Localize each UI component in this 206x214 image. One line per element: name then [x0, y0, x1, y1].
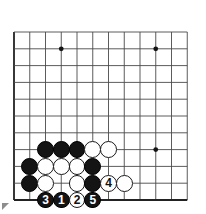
star-point	[153, 147, 158, 152]
go-stone-white	[69, 175, 86, 192]
go-stone-white	[53, 158, 70, 175]
move-marker-3: 3	[37, 192, 54, 209]
go-stone-black	[84, 175, 101, 192]
go-stone-black	[53, 141, 70, 158]
move-marker-1: 1	[53, 192, 70, 209]
go-stone-white	[116, 175, 133, 192]
move-marker-4: 4	[100, 175, 117, 192]
star-point	[153, 46, 158, 51]
star-point	[59, 46, 64, 51]
go-stone-white	[100, 141, 117, 158]
go-stone-black	[37, 141, 54, 158]
go-stone-white	[84, 141, 101, 158]
go-stone-black	[84, 158, 101, 175]
go-stone-white	[37, 175, 54, 192]
go-stone-white	[69, 158, 86, 175]
corner-fold-icon	[2, 203, 9, 210]
go-stone-white	[37, 158, 54, 175]
go-stone-black	[21, 158, 38, 175]
go-stone-black	[21, 175, 38, 192]
go-diagram: 31254	[0, 0, 206, 214]
